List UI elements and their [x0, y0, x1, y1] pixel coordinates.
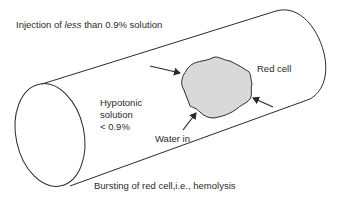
arrow-water-top [150, 66, 180, 73]
tube-right-end [276, 10, 326, 99]
red-cell [182, 57, 252, 118]
arrow-water-right [253, 98, 273, 107]
caption-label: Bursting of red cell,i.e., hemolysis [94, 180, 236, 191]
arrow-water-in [183, 113, 196, 130]
solution-label-line2: solution [100, 109, 142, 121]
tube [6, 10, 326, 193]
title-prefix: Injection of [16, 19, 65, 30]
solution-label: Hypotonic solution < 0.9% [100, 97, 142, 133]
red-cell-label: Red cell [257, 63, 291, 74]
title-emphasis: less [65, 19, 82, 30]
title-suffix: than 0.9% solution [82, 19, 163, 30]
solution-label-line1: Hypotonic [100, 97, 142, 109]
tube-opening [6, 77, 94, 193]
hemolysis-diagram [0, 0, 339, 201]
title-label: Injection of less than 0.9% solution [16, 19, 162, 30]
solution-label-line3: < 0.9% [100, 121, 142, 133]
water-in-label: Water in [155, 133, 190, 144]
